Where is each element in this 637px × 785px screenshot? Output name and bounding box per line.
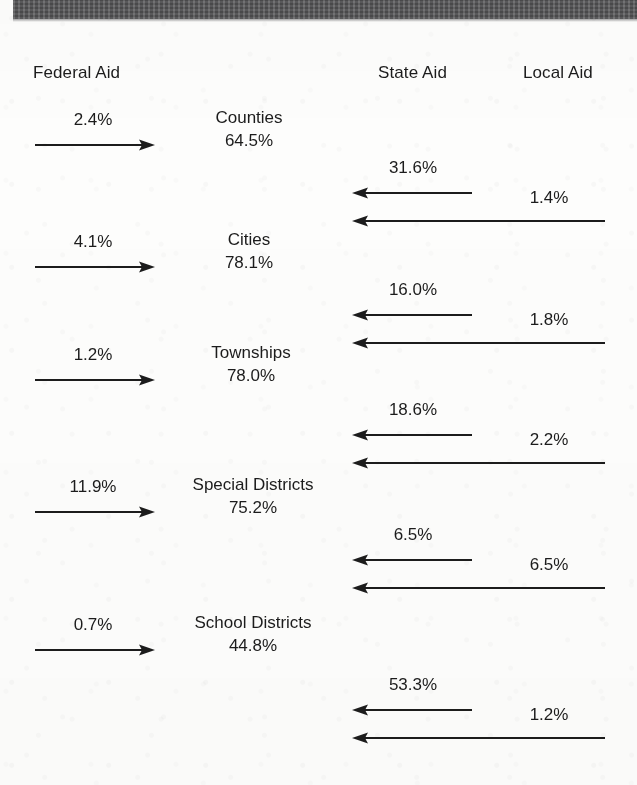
federal-arrow-school-districts (35, 643, 155, 657)
own-source-pct-townships: 78.0% (211, 365, 290, 388)
federal-arrow-townships (35, 373, 155, 387)
column-header-state-aid: State Aid (378, 63, 447, 83)
federal-pct-counties: 2.4% (74, 110, 113, 130)
entity-townships: Townships 78.0% (211, 342, 290, 388)
scan-top-band (13, 0, 637, 19)
entity-special-districts: Special Districts 75.2% (193, 474, 314, 520)
local-pct-cities: 1.8% (530, 310, 569, 330)
own-source-pct-special-districts: 75.2% (193, 497, 314, 520)
federal-pct-townships: 1.2% (74, 345, 113, 365)
entity-school-districts: School Districts 44.8% (194, 612, 311, 658)
own-source-pct-cities: 78.1% (225, 252, 273, 275)
entity-cities: Cities 78.1% (225, 229, 273, 275)
entity-counties: Counties 64.5% (215, 107, 282, 153)
state-arrow-counties (352, 186, 472, 200)
local-arrow-cities (352, 336, 605, 350)
entity-name-school-districts: School Districts (194, 612, 311, 635)
state-pct-counties: 31.6% (389, 158, 437, 178)
entity-name-cities: Cities (225, 229, 273, 252)
federal-arrow-counties (35, 138, 155, 152)
state-arrow-special-districts (352, 553, 472, 567)
entity-name-townships: Townships (211, 342, 290, 365)
aid-flow-diagram: Federal Aid State Aid Local Aid 2.4% Cou… (0, 0, 637, 785)
state-arrow-townships (352, 428, 472, 442)
column-header-local-aid: Local Aid (523, 63, 593, 83)
state-pct-school-districts: 53.3% (389, 675, 437, 695)
federal-pct-cities: 4.1% (74, 232, 113, 252)
federal-arrow-special-districts (35, 505, 155, 519)
federal-pct-school-districts: 0.7% (74, 615, 113, 635)
own-source-pct-counties: 64.5% (215, 130, 282, 153)
federal-arrow-cities (35, 260, 155, 274)
local-arrow-school-districts (352, 731, 605, 745)
entity-name-counties: Counties (215, 107, 282, 130)
state-pct-cities: 16.0% (389, 280, 437, 300)
local-pct-school-districts: 1.2% (530, 705, 569, 725)
local-arrow-townships (352, 456, 605, 470)
column-header-federal-aid: Federal Aid (33, 63, 120, 83)
local-pct-special-districts: 6.5% (530, 555, 569, 575)
own-source-pct-school-districts: 44.8% (194, 635, 311, 658)
federal-pct-special-districts: 11.9% (70, 477, 117, 497)
state-arrow-school-districts (352, 703, 472, 717)
state-arrow-cities (352, 308, 472, 322)
state-pct-townships: 18.6% (389, 400, 437, 420)
local-arrow-special-districts (352, 581, 605, 595)
state-pct-special-districts: 6.5% (394, 525, 433, 545)
local-pct-townships: 2.2% (530, 430, 569, 450)
local-arrow-counties (352, 214, 605, 228)
local-pct-counties: 1.4% (530, 188, 569, 208)
entity-name-special-districts: Special Districts (193, 474, 314, 497)
